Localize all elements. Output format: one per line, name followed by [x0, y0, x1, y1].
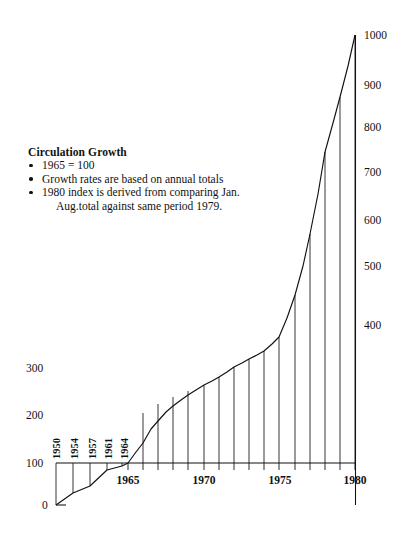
legend-list: 1965 = 100 Growth rates are based on ann…	[28, 159, 308, 213]
legend-item-text: Growth rates are based on annual totals	[42, 173, 223, 185]
legend-item-1: Growth rates are based on annual totals	[28, 173, 308, 187]
xtick-rot-1954: 1954	[69, 437, 80, 459]
ytick-900: 900	[364, 79, 382, 91]
xtick-rot-1961: 1961	[103, 438, 114, 459]
bullet-icon	[29, 191, 33, 195]
ytick-700: 700	[364, 166, 382, 178]
bullet-icon	[29, 177, 33, 181]
ytick-1000: 1000	[364, 29, 387, 41]
ytick-800: 800	[364, 121, 382, 133]
circulation-growth-chart: 1000 900 800 700 600 500 400 300 200 100…	[0, 0, 410, 547]
xtick-rot-1950: 1950	[51, 438, 62, 459]
legend-item-2: 1980 index is derived from comparing Jan…	[28, 186, 308, 213]
xtick-1970: 1970	[193, 474, 216, 486]
xtick-rot-1957: 1957	[87, 438, 98, 459]
ytick-400: 400	[364, 319, 382, 331]
xtick-1965: 1965	[117, 474, 140, 486]
legend-title: Circulation Growth	[28, 146, 308, 158]
legend-item-continuation: Aug.total against same period 1979.	[42, 200, 308, 214]
xtick-rot-1964: 1964	[119, 437, 130, 459]
ytick-600: 600	[364, 214, 382, 226]
chart-svg: 1000 900 800 700 600 500 400 300 200 100…	[0, 0, 410, 547]
ytick-0: 0	[42, 499, 48, 511]
ytick-300: 300	[26, 362, 44, 374]
drop-lines-main	[143, 35, 355, 463]
ytick-200: 200	[26, 409, 44, 421]
legend-item-text: 1965 = 100	[42, 159, 95, 171]
legend-item-0: 1965 = 100	[28, 159, 308, 173]
bullet-icon	[29, 164, 33, 168]
legend-item-text: 1980 index is derived from comparing Jan…	[42, 186, 240, 198]
xtick-1975: 1975	[269, 474, 292, 486]
legend-block: Circulation Growth 1965 = 100 Growth rat…	[28, 146, 308, 213]
xtick-1980: 1980	[344, 474, 367, 486]
x-tick-marks	[128, 463, 355, 470]
ytick-500: 500	[364, 260, 382, 272]
ytick-100: 100	[26, 457, 44, 469]
